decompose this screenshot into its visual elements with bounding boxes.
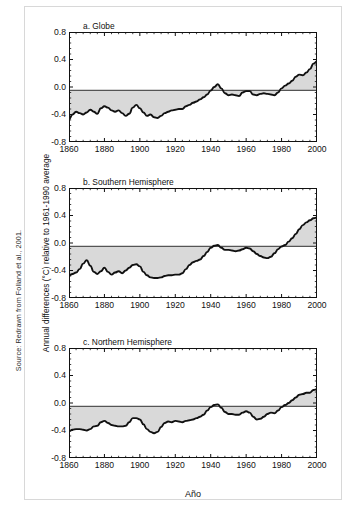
plot-area-globe — [69, 32, 317, 142]
x-axis-label: Año — [69, 489, 317, 499]
x-tick-label: 2000 — [303, 300, 331, 310]
panel-title-southern-hemisphere: b. Southern Hemisphere — [83, 177, 174, 187]
x-tick-label: 1900 — [126, 460, 154, 470]
y-tick-label: 0.8 — [54, 183, 66, 193]
x-tick-label: 1940 — [197, 300, 225, 310]
chart-svg — [69, 348, 317, 458]
x-tick-label: 1880 — [90, 460, 118, 470]
y-tick-label: 0.4 — [54, 370, 66, 380]
x-tick-label: 1920 — [161, 460, 189, 470]
y-tick-label: 0.0 — [54, 82, 66, 92]
x-tick-label: 1980 — [268, 300, 296, 310]
panel-title-northern-hemisphere: c. Northern Hemisphere — [83, 337, 172, 347]
y-tick-label: 0.0 — [54, 398, 66, 408]
x-tick-label: 1960 — [232, 144, 260, 154]
x-tick-label: 1960 — [232, 460, 260, 470]
source-note: Source: Redrawn from Folland et al., 200… — [14, 191, 23, 411]
y-tick-label: 0.8 — [54, 343, 66, 353]
x-tick-label: 1860 — [55, 144, 83, 154]
y-tick-label: -0.4 — [51, 425, 66, 435]
y-tick-label: -0.4 — [51, 265, 66, 275]
y-axis-label: Annual differences (°C) relative to 1961… — [41, 123, 51, 383]
panel-title-globe: a. Globe — [83, 21, 115, 31]
figure-frame: a. Globe 0.80.40.0-0.4-0.818601880190019… — [24, 6, 342, 500]
chart-svg — [69, 32, 317, 142]
x-tick-label: 1860 — [55, 460, 83, 470]
x-tick-label: 1880 — [90, 300, 118, 310]
y-tick-label: 0.4 — [54, 54, 66, 64]
x-tick-label: 1860 — [55, 300, 83, 310]
y-tick-label: 0.4 — [54, 210, 66, 220]
y-tick-label: 0.8 — [54, 27, 66, 37]
chart-svg — [69, 188, 317, 298]
plot-area-northern-hemisphere — [69, 348, 317, 458]
y-tick-label: 0.0 — [54, 238, 66, 248]
x-tick-label: 1980 — [268, 144, 296, 154]
x-tick-label: 1940 — [197, 460, 225, 470]
x-tick-label: 1900 — [126, 144, 154, 154]
x-tick-label: 2000 — [303, 460, 331, 470]
x-tick-label: 1900 — [126, 300, 154, 310]
x-tick-label: 1920 — [161, 144, 189, 154]
x-tick-label: 1880 — [90, 144, 118, 154]
y-tick-label: -0.4 — [51, 109, 66, 119]
x-tick-label: 1940 — [197, 144, 225, 154]
x-tick-label: 1920 — [161, 300, 189, 310]
plot-area-southern-hemisphere — [69, 188, 317, 298]
x-tick-label: 1960 — [232, 300, 260, 310]
x-tick-label: 1980 — [268, 460, 296, 470]
x-tick-label: 2000 — [303, 144, 331, 154]
